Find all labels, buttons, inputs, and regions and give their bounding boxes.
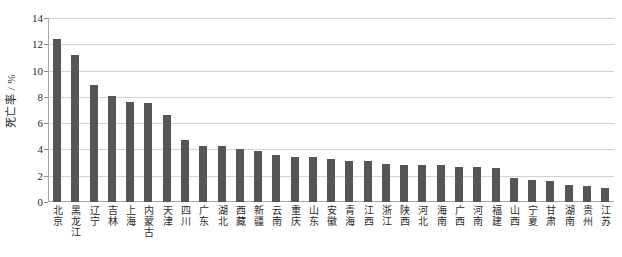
x-label-slot: 广西 [450, 205, 468, 257]
x-label-slot: 四川 [176, 205, 194, 257]
bar-slot [523, 18, 541, 202]
y-axis-tick-label: 2 [6, 170, 48, 182]
bar [71, 55, 79, 202]
bar-slot [377, 18, 395, 202]
x-axis-tick-label: 山东 [307, 205, 318, 257]
bar [126, 102, 134, 202]
x-label-slot: 西藏 [231, 205, 249, 257]
bar [53, 39, 61, 202]
bar-slot [596, 18, 614, 202]
x-axis-tick-label: 西藏 [234, 205, 245, 257]
x-axis-labels: 北京黑龙江辽宁吉林上海内蒙古天津四川广东湖北西藏新疆云南重庆山东安徽青海江西浙江… [48, 205, 614, 257]
bar [583, 186, 591, 202]
x-axis-tick-label: 陕西 [399, 205, 410, 257]
bar [291, 157, 299, 202]
bar [601, 188, 609, 202]
bar-slot [505, 18, 523, 202]
bar [455, 167, 463, 202]
x-axis-tick-label: 云南 [271, 205, 282, 257]
x-label-slot: 湖南 [559, 205, 577, 257]
bar [236, 149, 244, 202]
x-axis-tick-label: 山西 [508, 205, 519, 257]
y-axis-tick-label: 6 [6, 117, 48, 129]
x-axis-tick-label: 江苏 [600, 205, 611, 257]
bar [327, 159, 335, 202]
x-label-slot: 黑龙江 [66, 205, 84, 257]
x-label-slot: 山东 [304, 205, 322, 257]
bar-slot [413, 18, 431, 202]
x-axis-tick-label: 黑龙江 [70, 205, 81, 257]
x-axis-tick-label: 湖北 [216, 205, 227, 257]
y-axis-tick-label: 14 [6, 12, 48, 24]
bar [437, 165, 445, 202]
y-axis-tick-label: 8 [6, 91, 48, 103]
bar-slot [395, 18, 413, 202]
bar-slot [176, 18, 194, 202]
bar [510, 178, 518, 202]
x-axis-tick-label: 新疆 [253, 205, 264, 257]
bar-slot [267, 18, 285, 202]
x-label-slot: 青海 [340, 205, 358, 257]
bar [144, 103, 152, 202]
x-label-slot: 山西 [505, 205, 523, 257]
x-label-slot: 吉林 [103, 205, 121, 257]
x-label-slot: 海南 [432, 205, 450, 257]
x-label-slot: 内蒙古 [139, 205, 157, 257]
x-label-slot: 北京 [48, 205, 66, 257]
bar-slot [541, 18, 559, 202]
x-label-slot: 甘肃 [541, 205, 559, 257]
bar-slot [231, 18, 249, 202]
x-axis-tick-label: 辽宁 [88, 205, 99, 257]
bar-slot [194, 18, 212, 202]
x-axis-tick-label: 内蒙古 [143, 205, 154, 257]
bar [473, 167, 481, 202]
bar-chart: 死亡率 / % 02468101214 北京黑龙江辽宁吉林上海内蒙古天津四川广东… [0, 0, 622, 257]
x-label-slot: 天津 [158, 205, 176, 257]
bars-layer [48, 18, 614, 202]
bar [565, 185, 573, 202]
x-label-slot: 福建 [486, 205, 504, 257]
x-axis-tick-label: 甘肃 [545, 205, 556, 257]
x-label-slot: 辽宁 [85, 205, 103, 257]
x-label-slot: 湖北 [212, 205, 230, 257]
bar [218, 146, 226, 203]
x-label-slot: 新疆 [249, 205, 267, 257]
bar-slot [212, 18, 230, 202]
x-label-slot: 浙江 [377, 205, 395, 257]
bar [382, 164, 390, 202]
bar-slot [48, 18, 66, 202]
x-axis-tick-label: 吉林 [106, 205, 117, 257]
bar [400, 165, 408, 202]
x-axis-tick-label: 海南 [435, 205, 446, 257]
x-label-slot: 陕西 [395, 205, 413, 257]
bar [181, 140, 189, 202]
bar [108, 96, 116, 202]
bar-slot [103, 18, 121, 202]
y-axis-tick-mark [44, 202, 48, 203]
y-axis-tick-label: 10 [6, 65, 48, 77]
x-axis-tick-label: 河南 [472, 205, 483, 257]
x-label-slot: 安徽 [322, 205, 340, 257]
x-label-slot: 云南 [267, 205, 285, 257]
x-axis-tick-label: 北京 [52, 205, 63, 257]
x-axis-tick-label: 青海 [344, 205, 355, 257]
bar [254, 151, 262, 202]
y-axis-tick-label: 4 [6, 143, 48, 155]
y-axis-ticks: 02468101214 [0, 18, 48, 202]
bar-slot [359, 18, 377, 202]
x-axis-tick-label: 江西 [362, 205, 373, 257]
bar-slot [340, 18, 358, 202]
bar-slot [66, 18, 84, 202]
bar [309, 157, 317, 202]
y-axis-tick-label: 12 [6, 38, 48, 50]
bar-slot [158, 18, 176, 202]
x-axis-tick-label: 广东 [198, 205, 209, 257]
x-axis-tick-label: 湖南 [563, 205, 574, 257]
x-axis-tick-label: 天津 [161, 205, 172, 257]
x-label-slot: 河南 [468, 205, 486, 257]
bar [90, 85, 98, 202]
x-axis-tick-label: 广西 [453, 205, 464, 257]
x-axis-tick-label: 重庆 [289, 205, 300, 257]
bar [272, 155, 280, 202]
bar-slot [285, 18, 303, 202]
